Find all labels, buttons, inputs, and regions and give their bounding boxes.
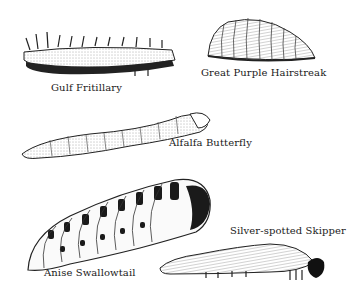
caterpillar-illustrations — [0, 0, 358, 299]
label-great-purple-hairstreak: Great Purple Hairstreak — [201, 67, 326, 78]
label-alfalfa-butterfly: Alfalfa Butterfly — [169, 137, 252, 148]
great-purple-hairstreak-drawing — [208, 18, 315, 61]
label-gulf-fritillary: Gulf Fritillary — [51, 82, 122, 93]
caterpillar-plate: Gulf Fritillary Great Purple Hairstreak … — [0, 0, 358, 299]
gulf-fritillary-drawing — [24, 32, 175, 76]
silver-spotted-skipper-drawing — [160, 244, 324, 280]
label-silver-spotted-skipper: Silver-spotted Skipper — [230, 225, 346, 236]
label-anise-swallowtail: Anise Swallowtail — [44, 267, 136, 278]
alfalfa-butterfly-drawing — [22, 113, 210, 159]
